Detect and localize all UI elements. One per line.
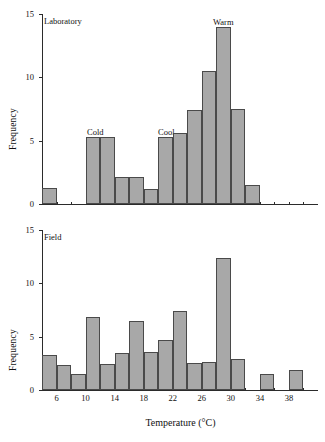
x-tick (260, 202, 261, 205)
histogram-bar (57, 365, 72, 390)
histogram-bar (158, 137, 173, 204)
histogram-bar (216, 258, 231, 390)
histogram-bar (144, 352, 159, 390)
x-tick-label: 34 (251, 394, 269, 403)
histogram-bar (158, 340, 173, 390)
x-tick (274, 202, 275, 205)
histogram-bar (42, 355, 57, 390)
plot-area-laboratory: 051015 (0, 0, 325, 221)
histogram-bar (71, 374, 86, 390)
x-tick-label: 14 (106, 394, 124, 403)
histogram-bar (187, 110, 202, 204)
x-tick (245, 388, 246, 391)
y-tick-label: 0 (16, 386, 34, 394)
plot-area-field: 05101561014182226303438 (0, 221, 325, 442)
figure-canvas: Frequency Laboratory Cold Cool Warm 0510… (0, 0, 325, 442)
histogram-bar (231, 109, 246, 204)
x-tick-label: 38 (280, 394, 298, 403)
histogram-bar (100, 364, 115, 390)
histogram-bar (216, 27, 231, 204)
histogram-bar (86, 317, 101, 390)
y-tick (39, 204, 43, 205)
y-tick (39, 77, 43, 78)
histogram-bar (187, 363, 202, 390)
x-axis-line (42, 390, 318, 391)
histogram-bar (173, 133, 188, 204)
y-tick (39, 141, 43, 142)
y-tick (39, 390, 43, 391)
x-tick (71, 202, 72, 205)
x-tick-label: 22 (164, 394, 182, 403)
histogram-bar (42, 188, 57, 204)
histogram-bar (115, 353, 130, 390)
histogram-bar (173, 311, 188, 390)
y-tick-label: 10 (16, 73, 34, 81)
x-tick-label: 6 (48, 394, 66, 403)
x-tick (57, 202, 58, 205)
y-axis-line (42, 14, 43, 204)
y-tick (39, 283, 43, 284)
histogram-bar (202, 71, 217, 204)
y-tick (39, 337, 43, 338)
x-tick (289, 202, 290, 205)
histogram-bar (144, 189, 159, 204)
y-tick-label: 15 (16, 226, 34, 234)
y-tick (39, 230, 43, 231)
histogram-bar (86, 137, 101, 204)
x-tick (303, 202, 304, 205)
histogram-bar (260, 374, 275, 390)
x-tick (274, 388, 275, 391)
y-tick-label: 0 (16, 200, 34, 208)
y-tick (39, 14, 43, 15)
histogram-bar (231, 359, 246, 390)
histogram-bar (129, 177, 144, 204)
y-tick-label: 15 (16, 10, 34, 18)
panel-field: Frequency Field Temperature (°C) 0510156… (0, 221, 325, 442)
histogram-bar (100, 137, 115, 204)
y-tick-label: 10 (16, 279, 34, 287)
x-tick-label: 10 (77, 394, 95, 403)
histogram-bar (202, 362, 217, 390)
x-tick-label: 26 (193, 394, 211, 403)
x-axis-line (42, 204, 318, 205)
x-tick (303, 388, 304, 391)
histogram-bar (129, 321, 144, 390)
x-tick-label: 30 (222, 394, 240, 403)
histogram-bar (245, 185, 260, 204)
histogram-bar (115, 177, 130, 204)
y-tick-label: 5 (16, 137, 34, 145)
histogram-bar (289, 370, 304, 390)
y-tick-label: 5 (16, 333, 34, 341)
panel-laboratory: Frequency Laboratory Cold Cool Warm 0510… (0, 0, 325, 221)
x-tick-label: 18 (135, 394, 153, 403)
